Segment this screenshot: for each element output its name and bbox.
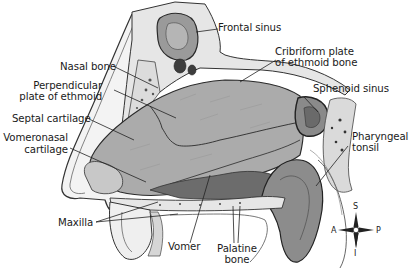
label-palatine-bone-line2: bone xyxy=(212,254,262,265)
label-septal-cartilage: Septal cartilage xyxy=(12,113,91,124)
compass-label-posterior: P xyxy=(376,226,381,235)
label-nasal-bone: Nasal bone xyxy=(58,61,116,72)
label-sphenoid-sinus: Sphenoid sinus xyxy=(313,83,389,94)
label-cribriform-plate-line2: of ethmoid bone xyxy=(275,57,357,68)
label-vomer: Vomer xyxy=(168,241,200,252)
label-palatine-bone-line1: Palatine xyxy=(212,243,262,254)
label-pharyngeal-tonsil-line1: Pharyngeal xyxy=(352,131,408,142)
label-vomeronasal-cartilage-line2: cartilage xyxy=(0,144,68,155)
compass-label-superior: S xyxy=(353,202,358,211)
label-perpendicular-plate-line2: plate of ethmoid xyxy=(14,91,102,102)
label-frontal-sinus: Frontal sinus xyxy=(218,22,281,33)
label-maxilla: Maxilla xyxy=(58,217,93,228)
compass-label-inferior: I xyxy=(354,249,356,258)
label-cribriform-plate-line1: Cribriform plate xyxy=(275,46,354,57)
label-pharyngeal-tonsil-line2: tonsil xyxy=(352,142,379,153)
label-perpendicular-plate-line1: Perpendicular xyxy=(24,80,102,91)
label-vomeronasal-cartilage-line1: Vomeronasal xyxy=(0,132,68,143)
orientation-compass xyxy=(338,212,374,248)
sphenoid-sinus xyxy=(295,97,328,136)
compass-label-anterior: A xyxy=(331,226,336,235)
